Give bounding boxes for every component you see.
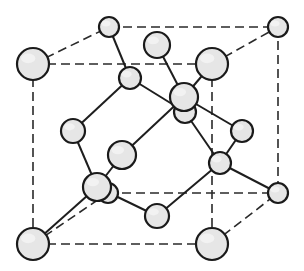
- atom-face-center-bottom: [145, 204, 169, 228]
- atom-corner-back-top-left: [99, 17, 119, 37]
- atom-face-center-right: [231, 120, 253, 142]
- atom-tetrahedral-1: [119, 67, 141, 89]
- atom-corner-front-top-left: [17, 48, 49, 80]
- atom-face-center-left: [61, 119, 85, 143]
- atom-corner-front-bottom-right: [196, 228, 228, 260]
- atom-corner-front-bottom-left: [17, 228, 49, 260]
- atom-corner-back-top-right: [268, 17, 288, 37]
- atom-tetrahedral-4: [83, 173, 111, 201]
- diamond-cubic-unit-cell: [0, 0, 304, 271]
- atom-face-center-front: [108, 141, 136, 169]
- crystal-structure-diagram: [0, 0, 304, 271]
- atoms: [17, 17, 288, 260]
- atom-corner-front-top-right: [196, 48, 228, 80]
- atom-tetrahedral-3: [209, 152, 231, 174]
- atom-corner-back-bottom-right: [268, 183, 288, 203]
- atom-face-center-top: [144, 32, 170, 58]
- atom-tetrahedral-2: [170, 83, 198, 111]
